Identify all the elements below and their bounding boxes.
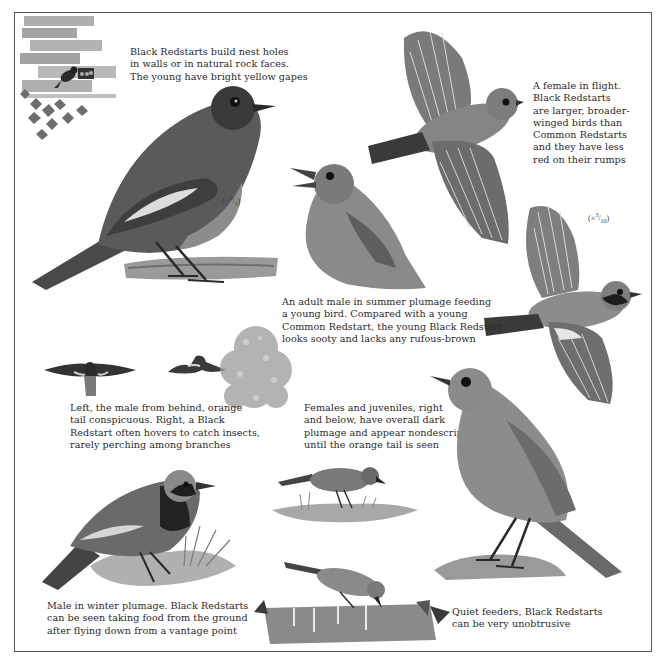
- winter-male-illustration: [40, 456, 240, 592]
- feeding-log-illustration: [254, 556, 454, 646]
- field-guide-page: Black Redstarts build nest holes in wall…: [0, 0, 667, 666]
- female-standing-illustration: [426, 360, 626, 586]
- caption-quiet-feeders: Quiet feeders, Black Redstarts can be ve…: [452, 606, 603, 631]
- caption-female-flight: A female in flight. Black Redstarts are …: [533, 80, 630, 166]
- juvenile-ground-illustration: [272, 464, 420, 528]
- male-from-behind-illustration: [42, 356, 138, 398]
- caption-winter-male: Male in winter plumage. Black Redstarts …: [47, 600, 248, 637]
- caption-nest: Black Redstarts build nest holes in wall…: [130, 46, 308, 83]
- caption-male-behind: Left, the male from behind, orange tail …: [70, 402, 260, 451]
- adult-male-perched-illustration: [28, 86, 288, 296]
- scale-label-large: (×3/5): [222, 195, 240, 207]
- scale-label-flight: (×3/10): [588, 212, 609, 224]
- caption-adult-feeding: An adult male in summer plumage feeding …: [282, 296, 502, 345]
